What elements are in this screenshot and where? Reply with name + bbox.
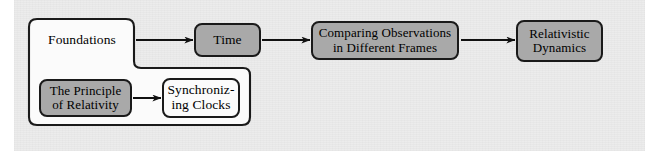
node-synchronizing-clocks	[163, 79, 239, 117]
flowchart-canvas	[0, 0, 656, 151]
node-principle-of-relativity	[40, 80, 131, 116]
node-time	[195, 24, 260, 56]
node-relativistic-dynamics	[517, 21, 602, 61]
node-comparing-observations	[312, 22, 458, 59]
diagram-page: Foundations The Principle of Relativity …	[0, 0, 656, 151]
